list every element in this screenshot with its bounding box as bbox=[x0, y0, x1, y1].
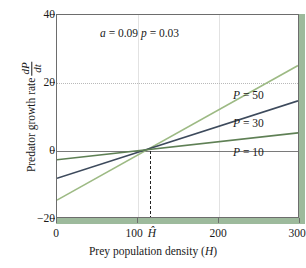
chart-figure: 40 20 0 −20 0 100 Ĥ 200 300 Prey populat… bbox=[0, 0, 306, 268]
series-label-p30: P = 30 bbox=[233, 117, 264, 129]
fraction-denominator: dt bbox=[32, 61, 43, 75]
series-line-p50 bbox=[57, 66, 298, 201]
xtick-mark-100 bbox=[137, 218, 138, 223]
y-axis-title-text: Predator growth rate bbox=[25, 78, 37, 173]
series-label-p50-symbol: P bbox=[233, 89, 240, 101]
x-axis-title-variable: H bbox=[205, 245, 213, 257]
ytick-label-0: 0 bbox=[49, 145, 55, 157]
series-line-p30 bbox=[57, 101, 298, 178]
x-axis-title-close: ) bbox=[213, 245, 217, 257]
xtick-mark-200 bbox=[218, 218, 219, 223]
y-axis-title-fraction: dPdt bbox=[20, 61, 43, 75]
x-axis-title-text: Prey population density ( bbox=[89, 245, 205, 257]
annotation-p-value: = 0.03 bbox=[150, 27, 180, 39]
xtick-label-100: 100 bbox=[125, 228, 142, 240]
xtick-label-0: 0 bbox=[53, 228, 59, 240]
xtick-mark-0 bbox=[56, 218, 57, 223]
panel-edge-right bbox=[299, 14, 305, 224]
ytick-label-40: 40 bbox=[44, 9, 56, 21]
xtick-label-hhat: Ĥ bbox=[148, 228, 156, 240]
series-label-p10-symbol: P bbox=[233, 146, 240, 158]
fraction-numerator: dP bbox=[20, 61, 32, 75]
xtick-label-200: 200 bbox=[209, 228, 226, 240]
series-label-p10: P = 10 bbox=[233, 146, 264, 158]
ytick-label-neg20: −20 bbox=[37, 213, 55, 225]
parameter-annotation: a = 0.09 p = 0.03 bbox=[100, 27, 179, 39]
panel-edge-bottom bbox=[56, 218, 305, 224]
xtick-label-300: 300 bbox=[288, 228, 305, 240]
series-lines bbox=[57, 15, 298, 217]
series-label-p30-value: = 30 bbox=[243, 117, 264, 129]
plot-area bbox=[56, 14, 299, 218]
ytick-label-20: 20 bbox=[44, 77, 56, 89]
x-axis-title: Prey population density (H) bbox=[0, 245, 306, 257]
annotation-a-symbol: a bbox=[100, 27, 106, 39]
series-label-p50-value: = 50 bbox=[243, 89, 264, 101]
series-label-p10-value: = 10 bbox=[243, 146, 264, 158]
series-label-p50: P = 50 bbox=[233, 89, 264, 101]
y-axis-title: Predator growth ratedPdt bbox=[20, 22, 43, 212]
annotation-p-symbol: p bbox=[141, 27, 147, 39]
annotation-a-value: = 0.09 bbox=[109, 27, 139, 39]
series-label-p30-symbol: P bbox=[233, 117, 240, 129]
xtick-mark-300 bbox=[299, 218, 300, 223]
